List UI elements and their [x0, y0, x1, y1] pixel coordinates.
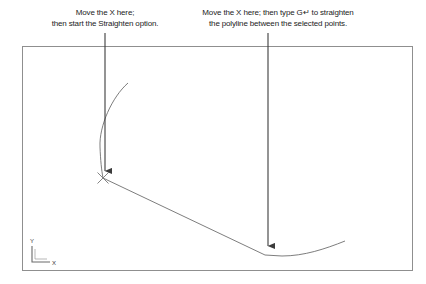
- lower-curved-segment: [265, 241, 345, 256]
- ucs-y-label: Y: [30, 238, 34, 244]
- x-vertex-marker: [98, 173, 109, 184]
- ucs-x-label: X: [52, 260, 56, 266]
- drawing-canvas: Y X: [0, 0, 426, 284]
- polyline-being-edited: [100, 83, 345, 256]
- drawing-viewport-border: [23, 47, 413, 271]
- upper-curved-segment: [100, 83, 128, 178]
- ucs-icon: Y X: [30, 238, 56, 266]
- figure-root: Move the X here; then start the Straight…: [0, 0, 426, 284]
- straight-diagonal-segment: [103, 178, 265, 255]
